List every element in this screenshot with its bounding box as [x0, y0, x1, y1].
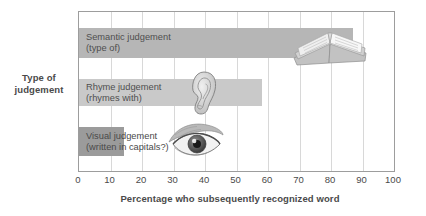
open-book-icon [291, 20, 369, 66]
bar-visual-judgement: Visual judgement (written in capitals?) [79, 127, 124, 156]
bar-semantic-label: Semantic judgement (type of) [86, 32, 171, 54]
bar-visual-label-line1: Visual judgement [86, 130, 157, 140]
x-tick-100: 100 [385, 174, 401, 185]
y-axis-title: Type of judgement [8, 72, 70, 95]
bar-chart-figure: Type of judgement Semantic judgement (ty… [0, 0, 426, 216]
bar-rhyme-label: Rhyme judgement (rhymes with) [86, 81, 161, 103]
bar-rhyme-label-line1: Rhyme judgement [86, 81, 161, 91]
x-axis-title: Percentage who subsequently recognized w… [60, 193, 400, 204]
y-axis-title-line1: Type of [22, 72, 56, 83]
bar-semantic-label-line1: Semantic judgement [86, 32, 171, 42]
x-tick-20: 20 [136, 174, 147, 185]
x-tick-50: 50 [230, 174, 241, 185]
x-tick-60: 60 [262, 174, 273, 185]
x-tick-80: 80 [325, 174, 336, 185]
x-tick-10: 10 [104, 174, 115, 185]
bar-rhyme-judgement: Rhyme judgement (rhymes with) [79, 79, 262, 106]
ear-icon [187, 70, 219, 116]
x-tick-30: 30 [167, 174, 178, 185]
x-tick-0: 0 [75, 174, 80, 185]
eye-icon [167, 122, 225, 160]
bar-visual-label-line2: (written in capitals?) [86, 142, 169, 153]
x-tick-90: 90 [356, 174, 367, 185]
x-tick-70: 70 [293, 174, 304, 185]
y-axis-title-line2: judgement [15, 84, 64, 95]
bar-visual-label: Visual judgement (written in capitals?) [86, 130, 169, 152]
x-tick-40: 40 [199, 174, 210, 185]
bar-semantic-label-line2: (type of) [86, 43, 171, 54]
bar-rhyme-label-line2: (rhymes with) [86, 93, 161, 104]
x-axis-ticks: 0 10 20 30 40 50 60 70 80 90 100 [78, 174, 395, 188]
plot-area: Semantic judgement (type of) Rhyme judge… [78, 11, 395, 172]
